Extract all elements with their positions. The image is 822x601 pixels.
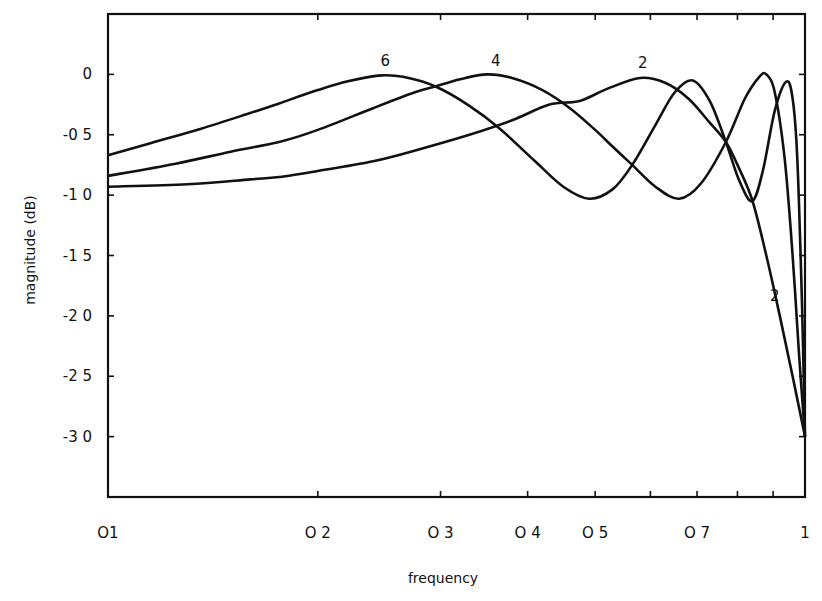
x-tick-label: O 4 xyxy=(515,524,541,542)
curves xyxy=(108,73,805,437)
y-axis-title: magnitude (dB) xyxy=(22,195,38,305)
x-axis-title: frequency xyxy=(408,570,478,586)
x-tick-label: O1 xyxy=(97,524,118,542)
curve-label-2: 2 xyxy=(638,54,648,72)
y-tick-label: 0 xyxy=(82,65,92,83)
x-tick-label: O 3 xyxy=(427,524,453,542)
y-axis-tick-labels: 0-0 5-1 0-1 5-2 0-2 5-3 0 xyxy=(63,65,92,445)
curve-label-2: 2 xyxy=(770,287,780,305)
x-axis-tick-labels: O1O 2O 3O 4O 5O 71 xyxy=(97,524,809,542)
curve-order-2 xyxy=(108,78,805,437)
x-tick-label: O 7 xyxy=(684,524,710,542)
y-tick-label: -1 0 xyxy=(63,186,92,204)
y-tick-label: -3 0 xyxy=(63,428,92,446)
magnitude-response-chart: O1O 2O 3O 4O 5O 71 0-0 5-1 0-1 5-2 0-2 5… xyxy=(0,0,822,601)
curve-order-6 xyxy=(108,75,805,436)
y-tick-label: -2 5 xyxy=(63,367,92,385)
curve-label-6: 6 xyxy=(381,52,391,70)
x-tick-label: O 2 xyxy=(305,524,331,542)
curve-order-4 xyxy=(108,73,805,437)
x-tick-label: O 5 xyxy=(582,524,608,542)
x-tick-label: 1 xyxy=(800,524,810,542)
y-tick-label: -1 5 xyxy=(63,247,92,265)
y-tick-label: -2 0 xyxy=(63,307,92,325)
curve-label-4: 4 xyxy=(491,52,501,70)
y-tick-label: -0 5 xyxy=(63,126,92,144)
